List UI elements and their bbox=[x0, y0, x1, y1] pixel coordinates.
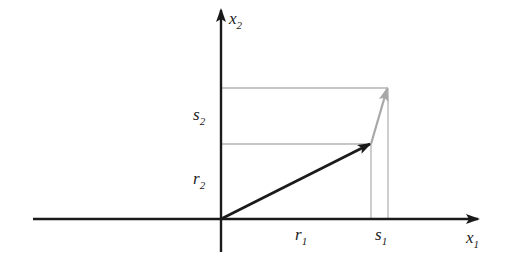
vector-r-arrow bbox=[221, 144, 370, 219]
s1-label: s1 bbox=[375, 225, 387, 247]
x2-axis-label: x2 bbox=[228, 9, 243, 31]
r1-label: r1 bbox=[295, 225, 307, 247]
projection-guides bbox=[221, 88, 388, 219]
vector-delta-arrow bbox=[371, 89, 387, 144]
s2-label: s2 bbox=[193, 105, 206, 127]
r2-label: r2 bbox=[193, 169, 206, 191]
vector-diagram: x2 x1 s2 r2 r1 s1 bbox=[0, 0, 507, 262]
x1-axis-label: x1 bbox=[465, 228, 479, 250]
